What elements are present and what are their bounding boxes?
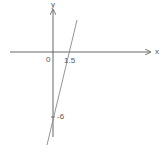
function-line [47,20,77,145]
coordinate-graph [0,0,168,158]
y-axis-label: y [51,1,55,9]
x-axis-label: x [155,48,159,56]
y-intercept-label: -6 [57,113,64,121]
x-intercept-label: 1.5 [64,57,75,65]
origin-label: 0 [46,56,50,64]
